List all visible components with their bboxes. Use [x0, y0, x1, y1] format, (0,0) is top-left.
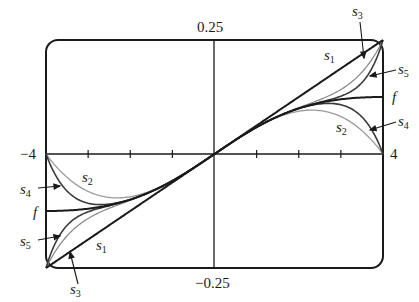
- label-s2-left: s2: [82, 170, 93, 189]
- arrowhead-icon: [54, 184, 60, 189]
- label-f-right: f: [392, 90, 396, 105]
- arrowhead-icon: [370, 72, 376, 77]
- label-s3-bottom: s3: [70, 282, 81, 301]
- label-s5-top: s5: [398, 62, 409, 81]
- arrowhead-icon: [69, 252, 74, 258]
- y-max-label: 0.25: [197, 20, 223, 35]
- label-s4-right: s4: [398, 114, 409, 133]
- x-max-label: 4: [390, 147, 398, 162]
- label-s2-right: s2: [336, 120, 347, 139]
- label-f-left: f: [33, 205, 37, 220]
- label-s4-left: s4: [20, 182, 31, 201]
- chart-canvas: [0, 0, 419, 302]
- label-s3-top: s3: [352, 4, 363, 23]
- label-s5-left: s5: [20, 234, 31, 253]
- label-s1-bottom: s1: [96, 238, 107, 257]
- y-min-label: −0.25: [195, 276, 230, 291]
- label-s1-top: s1: [324, 48, 335, 67]
- x-min-label: −4: [20, 147, 36, 162]
